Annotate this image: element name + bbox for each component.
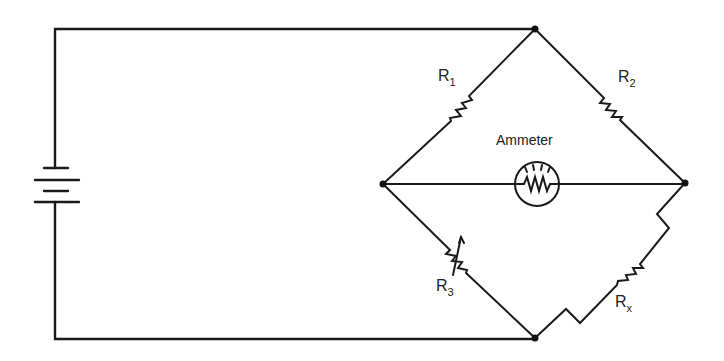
ammeter-label: Ammeter [496,132,553,148]
rx-resistor [535,183,685,338]
top-wire [55,29,535,168]
r2-label: R2 [618,68,636,89]
r2-resistor [535,29,685,183]
ammeter-icon [515,162,559,206]
r3-label: R3 [436,277,454,298]
node-bottom [532,335,539,342]
node-right [682,180,689,187]
r3-variable-resistor [383,184,535,338]
r1-label: R1 [438,67,456,88]
node-left [380,181,387,188]
node-top [532,26,539,33]
rx-label: Rx [615,293,633,314]
r1-resistor [383,29,535,184]
wheatstone-bridge-diagram: R1 R2 Ammeter R3 Rx [0,0,724,361]
battery-icon [35,168,79,202]
bottom-wire [55,202,535,339]
